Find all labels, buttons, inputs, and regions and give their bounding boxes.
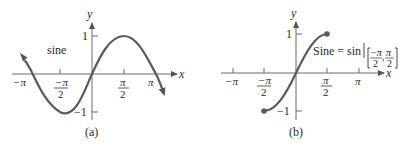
panel-label-b: (b)	[289, 125, 303, 139]
panel-a: x y 1 −1 −π −π 2 π 2 π sine	[12, 7, 185, 139]
svg-text:−π: −π	[55, 76, 68, 88]
x-tick-label-pi-a: π	[148, 76, 154, 88]
svg-text:−π: −π	[258, 74, 271, 86]
y-tick-label-neg1-b: −1	[277, 104, 290, 118]
y-axis-label-b: y	[290, 6, 297, 20]
svg-text:π: π	[386, 47, 392, 58]
svg-text:2: 2	[373, 58, 378, 69]
panel-b: x y 1 −1 −π −π 2 π 2 π Sin	[221, 6, 397, 139]
svg-text:Sine = sin: Sine = sin	[313, 44, 361, 58]
sine-curve-a	[25, 36, 165, 113]
x-tick-label-neg-pi-b: −π	[225, 75, 238, 87]
bracket-right	[395, 48, 397, 68]
svg-text:2: 2	[261, 86, 267, 98]
panel-label-a: (a)	[85, 125, 98, 139]
endpoint-dot-right-b	[324, 31, 330, 37]
svg-text:2: 2	[120, 88, 126, 100]
x-tick-label-neg-half-pi-a: −π 2	[54, 76, 68, 100]
curve-start-arrow-a	[20, 53, 28, 62]
svg-text:2: 2	[323, 86, 329, 98]
svg-text:−π: −π	[370, 47, 383, 58]
svg-text:2: 2	[58, 88, 64, 100]
svg-text:,: ,	[382, 51, 385, 62]
svg-text:π: π	[323, 74, 329, 86]
x-tick-label-neg-pi-a: −π	[13, 76, 26, 88]
x-axis-label-a: x	[178, 67, 185, 81]
y-tick-label-1-b: 1	[286, 27, 292, 41]
x-tick-label-half-pi-a: π 2	[118, 76, 129, 100]
x-tick-label-pi-b: π	[355, 75, 361, 87]
curve-label-a: sine	[47, 43, 66, 57]
x-tick-label-half-pi-b: π 2	[321, 74, 332, 98]
endpoint-dot-left-b	[261, 108, 267, 114]
y-axis-label-a: y	[86, 7, 93, 21]
curve-label-b: Sine = sin −π 2 , π 2	[313, 43, 397, 69]
x-tick-label-neg-half-pi-b: −π 2	[257, 74, 271, 98]
figure: x y 1 −1 −π −π 2 π 2 π sine	[0, 0, 407, 145]
svg-text:π: π	[120, 76, 126, 88]
y-tick-label-1-a: 1	[82, 29, 88, 43]
svg-text:2: 2	[387, 58, 392, 69]
